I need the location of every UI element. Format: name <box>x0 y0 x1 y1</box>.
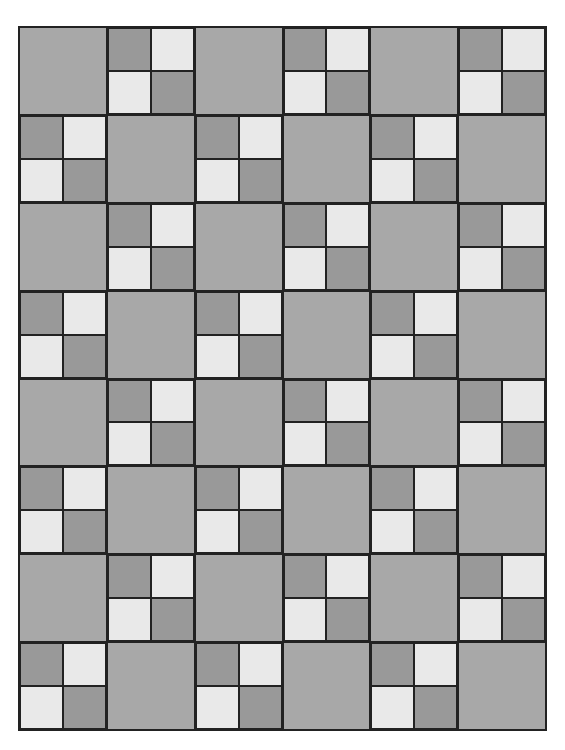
four-patch-block <box>195 466 283 554</box>
light-patch <box>502 380 545 423</box>
dark-patch <box>414 510 457 553</box>
square-block <box>195 27 283 115</box>
square-block <box>370 554 458 642</box>
dark-patch <box>63 510 106 553</box>
four-patch-block <box>458 379 546 467</box>
square-block <box>283 466 371 554</box>
light-patch <box>151 204 194 247</box>
four-patch-block <box>283 379 371 467</box>
four-patch-block <box>19 466 107 554</box>
square-block <box>283 642 371 730</box>
light-patch <box>371 686 414 729</box>
four-patch-block <box>107 203 195 291</box>
light-patch <box>502 555 545 598</box>
light-patch <box>108 247 151 290</box>
light-patch <box>414 643 457 686</box>
square-block <box>370 203 458 291</box>
dark-patch <box>196 467 239 510</box>
square-block <box>107 466 195 554</box>
light-patch <box>371 335 414 378</box>
dark-patch <box>20 292 63 335</box>
light-patch <box>326 555 369 598</box>
square-block <box>370 379 458 467</box>
light-patch <box>326 28 369 71</box>
light-patch <box>502 204 545 247</box>
dark-patch <box>326 247 369 290</box>
square-block <box>195 379 283 467</box>
square-block <box>458 466 546 554</box>
dark-patch <box>459 204 502 247</box>
square-block <box>370 27 458 115</box>
four-patch-block <box>370 466 458 554</box>
four-patch-block <box>458 554 546 642</box>
light-patch <box>284 598 327 641</box>
dark-patch <box>371 643 414 686</box>
four-patch-block <box>19 291 107 379</box>
dark-patch <box>502 247 545 290</box>
dark-patch <box>196 116 239 159</box>
four-patch-block <box>283 203 371 291</box>
light-patch <box>459 422 502 465</box>
dark-patch <box>239 159 282 202</box>
dark-patch <box>326 598 369 641</box>
dark-patch <box>414 686 457 729</box>
light-patch <box>63 292 106 335</box>
quilt-grid <box>18 26 547 731</box>
four-patch-block <box>107 27 195 115</box>
dark-patch <box>239 510 282 553</box>
four-patch-block <box>370 115 458 203</box>
dark-patch <box>63 335 106 378</box>
dark-patch <box>284 380 327 423</box>
square-block <box>458 642 546 730</box>
square-block <box>458 115 546 203</box>
four-patch-block <box>195 115 283 203</box>
dark-patch <box>502 598 545 641</box>
square-block <box>283 115 371 203</box>
light-patch <box>239 116 282 159</box>
square-block <box>19 27 107 115</box>
dark-patch <box>151 422 194 465</box>
dark-patch <box>371 116 414 159</box>
dark-patch <box>108 380 151 423</box>
dark-patch <box>502 71 545 114</box>
dark-patch <box>108 28 151 71</box>
light-patch <box>108 422 151 465</box>
dark-patch <box>151 71 194 114</box>
dark-patch <box>459 28 502 71</box>
light-patch <box>20 335 63 378</box>
four-patch-block <box>283 27 371 115</box>
light-patch <box>371 510 414 553</box>
light-patch <box>414 292 457 335</box>
light-patch <box>239 643 282 686</box>
light-patch <box>196 335 239 378</box>
square-block <box>19 554 107 642</box>
light-patch <box>326 380 369 423</box>
light-patch <box>371 159 414 202</box>
dark-patch <box>239 686 282 729</box>
light-patch <box>63 643 106 686</box>
square-block <box>107 291 195 379</box>
light-patch <box>284 71 327 114</box>
dark-patch <box>239 335 282 378</box>
dark-patch <box>63 686 106 729</box>
light-patch <box>502 28 545 71</box>
dark-patch <box>414 335 457 378</box>
light-patch <box>63 116 106 159</box>
dark-patch <box>326 422 369 465</box>
four-patch-block <box>195 291 283 379</box>
dark-patch <box>459 380 502 423</box>
light-patch <box>239 467 282 510</box>
light-patch <box>459 598 502 641</box>
dark-patch <box>63 159 106 202</box>
dark-patch <box>371 467 414 510</box>
light-patch <box>20 686 63 729</box>
light-patch <box>459 71 502 114</box>
dark-patch <box>20 116 63 159</box>
four-patch-block <box>370 642 458 730</box>
light-patch <box>196 510 239 553</box>
light-patch <box>108 598 151 641</box>
dark-patch <box>414 159 457 202</box>
dark-patch <box>284 28 327 71</box>
dark-patch <box>196 292 239 335</box>
dark-patch <box>326 71 369 114</box>
